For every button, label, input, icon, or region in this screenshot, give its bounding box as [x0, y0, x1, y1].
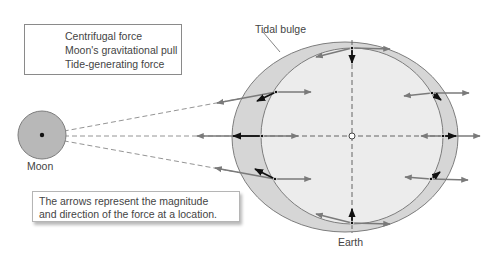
- legend: Centrifugal force Moon's gravitational p…: [24, 24, 182, 75]
- moon-label: Moon: [27, 160, 53, 172]
- tidal-bulge-label: Tidal bulge: [255, 23, 306, 35]
- tidal-bulge-leader: [263, 32, 280, 52]
- earth-center-icon: [349, 133, 355, 139]
- moon: [18, 111, 66, 159]
- earth-label: Earth: [338, 236, 363, 248]
- legend-tide-force-label: Tide-generating force: [65, 58, 164, 70]
- legend-centrifugal-label: Centrifugal force: [65, 30, 142, 42]
- note-line-1: The arrows represent the magnitude: [39, 195, 239, 208]
- legend-moon-pull-label: Moon's gravitational pull: [65, 44, 177, 56]
- note-line-2: and direction of the force at a location…: [39, 208, 239, 221]
- note-box: The arrows represent the magnitude and d…: [32, 191, 240, 222]
